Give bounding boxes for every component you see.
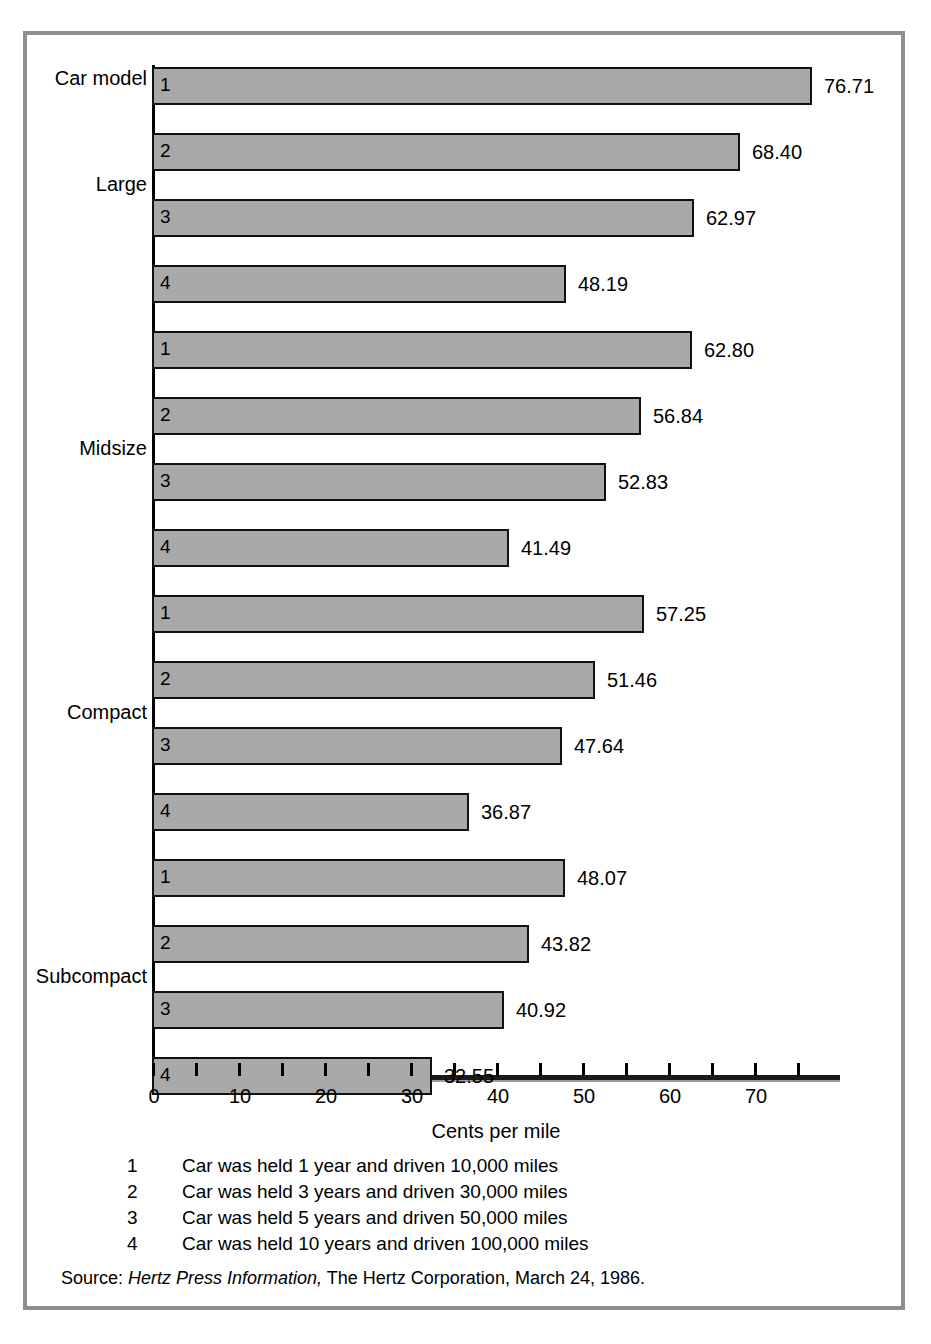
bar-row: 441.49 (152, 529, 629, 567)
bar-value-label: 47.64 (574, 735, 624, 757)
bar (152, 265, 566, 303)
footnote-list: 1Car was held 1 year and driven 10,000 m… (127, 1153, 867, 1257)
bar-value-label: 62.97 (706, 207, 756, 229)
tick-mark (324, 1063, 327, 1076)
tick-label: 0 (148, 1085, 159, 1108)
plot-area: Car model LargeMidsizeCompactSubcompact … (27, 35, 909, 1314)
footnote-text: Car was held 1 year and driven 10,000 mi… (182, 1153, 867, 1179)
bar-index-label: 3 (160, 206, 171, 228)
footnote-row: 2Car was held 3 years and driven 30,000 … (127, 1179, 867, 1205)
bar-row: 268.40 (152, 133, 860, 171)
bar-index-label: 4 (160, 1064, 171, 1086)
tick-mark (754, 1063, 757, 1076)
bar (152, 397, 641, 435)
bar (152, 991, 504, 1029)
bar-value-label: 76.71 (824, 75, 874, 97)
bar (152, 133, 740, 171)
tick-label: 60 (659, 1085, 681, 1108)
bar-index-label: 2 (160, 404, 171, 426)
group-label-compact: Compact (0, 701, 147, 724)
footnote-key: 1 (127, 1153, 182, 1179)
source-label: Source: (61, 1268, 123, 1288)
bar-index-label: 1 (160, 866, 171, 888)
bar-value-label: 43.82 (541, 933, 591, 955)
bar-row: 162.80 (152, 331, 812, 369)
footnote-text: Car was held 3 years and driven 30,000 m… (182, 1179, 867, 1205)
bar-index-label: 3 (160, 998, 171, 1020)
bar-value-label: 52.83 (618, 471, 668, 493)
bar-row: 347.64 (152, 727, 682, 765)
tick-mark (281, 1063, 284, 1076)
bar-row: 448.19 (152, 265, 686, 303)
group-label-subcompact: Subcompact (0, 965, 147, 988)
bar (152, 793, 469, 831)
bar (152, 529, 509, 567)
footnote-row: 4Car was held 10 years and driven 100,00… (127, 1231, 867, 1257)
bar-value-label: 48.19 (578, 273, 628, 295)
bar-index-label: 2 (160, 932, 171, 954)
bar-row: 352.83 (152, 463, 726, 501)
bar-index-label: 1 (160, 74, 171, 96)
tick-mark (797, 1063, 800, 1076)
group-label-column: LargeMidsizeCompactSubcompact (0, 35, 147, 1075)
chart-frame: Car model LargeMidsizeCompactSubcompact … (23, 31, 905, 1310)
footnote-key: 2 (127, 1179, 182, 1205)
tick-mark (453, 1063, 456, 1076)
tick-mark (410, 1063, 413, 1076)
bar-index-label: 4 (160, 536, 171, 558)
value-axis-label: Cents per mile (152, 1120, 840, 1143)
bar-row: 176.71 (152, 67, 931, 105)
bar-index-label: 1 (160, 338, 171, 360)
bar-value-label: 57.25 (656, 603, 706, 625)
group-label-large: Large (0, 173, 147, 196)
tick-mark (668, 1063, 671, 1076)
tick-label: 30 (401, 1085, 423, 1108)
tick-mark (582, 1063, 585, 1076)
tick-mark (238, 1063, 241, 1076)
bar-value-label: 32.55 (444, 1065, 494, 1087)
tick-mark (539, 1063, 542, 1076)
bar (152, 1057, 432, 1095)
bar (152, 67, 812, 105)
footnote-key: 3 (127, 1205, 182, 1231)
bar-value-label: 68.40 (752, 141, 802, 163)
bar-value-label: 41.49 (521, 537, 571, 559)
tick-mark (367, 1063, 370, 1076)
tick-mark (711, 1063, 714, 1076)
bar-row: 436.87 (152, 793, 589, 831)
tick-label: 70 (745, 1085, 767, 1108)
bar (152, 925, 529, 963)
bar (152, 463, 606, 501)
tick-mark (152, 1063, 155, 1076)
footnote-text: Car was held 10 years and driven 100,000… (182, 1231, 867, 1257)
tick-mark (625, 1063, 628, 1076)
tick-label: 50 (573, 1085, 595, 1108)
bar (152, 859, 565, 897)
source-rest: The Hertz Corporation, March 24, 1986. (327, 1268, 645, 1288)
bar-value-label: 40.92 (516, 999, 566, 1021)
tick-mark (496, 1063, 499, 1076)
bar (152, 661, 595, 699)
bar-index-label: 2 (160, 668, 171, 690)
bar-row: 243.82 (152, 925, 649, 963)
tick-label: 10 (229, 1085, 251, 1108)
bar (152, 331, 692, 369)
bar-row: 251.46 (152, 661, 715, 699)
bar (152, 727, 562, 765)
bar-index-label: 1 (160, 602, 171, 624)
bar-row: 157.25 (152, 595, 764, 633)
bar-index-label: 4 (160, 800, 171, 822)
footnote-row: 3Car was held 5 years and driven 50,000 … (127, 1205, 867, 1231)
tick-mark (195, 1063, 198, 1076)
bar-row: 362.97 (152, 199, 814, 237)
source-title: Hertz Press Information, (128, 1268, 322, 1288)
footnote-row: 1Car was held 1 year and driven 10,000 m… (127, 1153, 867, 1179)
bar-row: 340.92 (152, 991, 624, 1029)
tick-label: 40 (487, 1085, 509, 1108)
bar-value-label: 48.07 (577, 867, 627, 889)
bar-value-label: 62.80 (704, 339, 754, 361)
bar-row: 256.84 (152, 397, 761, 435)
source-note: Source: Hertz Press Information, The Her… (61, 1267, 645, 1289)
bar-index-label: 3 (160, 734, 171, 756)
group-label-midsize: Midsize (0, 437, 147, 460)
